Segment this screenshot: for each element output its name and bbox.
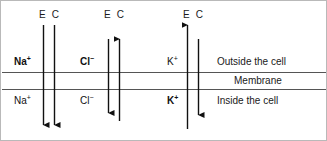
ion-symbol-potassium-outside: K [167,56,174,67]
region-label-outside: Outside the cell [217,57,286,67]
ion-label-sodium-inside: Na+ [14,96,31,106]
region-label-membrane: Membrane [234,76,282,86]
ion-label-potassium-inside: K+ [167,96,178,106]
diagram-canvas [1,1,327,141]
ion-symbol-chloride-outside: Cl [80,56,90,67]
ion-symbol-sodium-inside: Na [14,95,27,106]
ion-label-sodium-outside: Na+ [14,57,31,67]
ion-label-chloride-outside: Cl− [80,57,94,67]
membrane-transport-diagram: E C E C E C Na+ Cl− K+ Na+ Cl− K+ Outsid… [0,0,327,141]
ion-charge-potassium-outside: + [174,55,178,62]
column-header-sodium: E C [39,10,60,20]
column-header-potassium: E C [183,10,204,20]
ion-charge-sodium-outside: + [27,55,31,62]
ion-charge-chloride-inside: − [89,94,93,101]
ion-label-potassium-outside: K+ [167,57,178,67]
ion-charge-potassium-inside: + [174,94,178,101]
region-label-inside: Inside the cell [217,96,278,106]
ion-label-chloride-inside: Cl− [80,96,94,106]
ion-charge-chloride-outside: − [90,55,94,62]
ion-charge-sodium-inside: + [27,94,31,101]
column-header-chloride: E C [104,10,125,20]
ion-symbol-sodium-outside: Na [14,56,27,67]
